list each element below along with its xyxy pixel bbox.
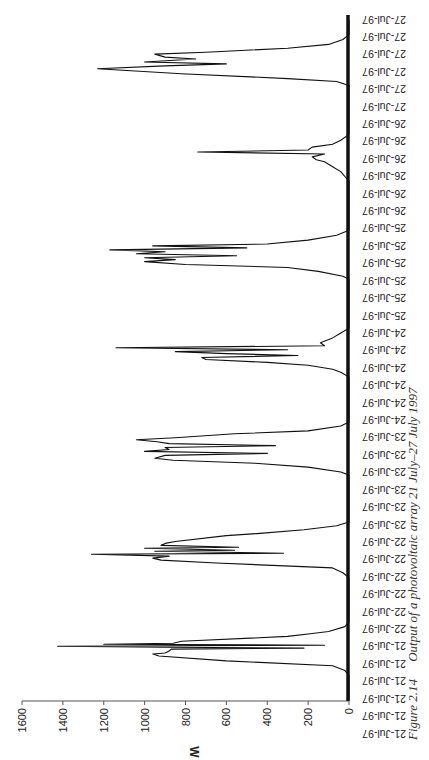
value-tick-label: 600	[220, 708, 232, 726]
time-tick-label: 23-Jul-97	[362, 431, 406, 443]
time-tick-label: 25-Jul-97	[362, 222, 406, 234]
time-tick-label: 26-Jul-97	[362, 135, 406, 147]
series-line	[58, 20, 349, 700]
value-tick-label: 800	[180, 708, 192, 726]
chart-canvas: 02004006008001000120014001600W 21-Jul-97…	[0, 0, 429, 760]
time-tick-label: 23-Jul-97	[362, 466, 406, 478]
value-tick-label: 1400	[57, 708, 69, 732]
time-tick-label: 25-Jul-97	[362, 275, 406, 287]
time-tick-label: 22-Jul-97	[362, 553, 406, 565]
time-tick-label: 24-Jul-97	[362, 344, 406, 356]
time-tick-label: 22-Jul-97	[362, 623, 406, 635]
time-tick-label: 24-Jul-97	[362, 327, 406, 339]
time-tick-label: 21-Jul-97	[362, 675, 406, 687]
time-tick-label: 21-Jul-97	[362, 693, 406, 705]
time-tick-label: 21-Jul-97	[362, 658, 406, 670]
series-path	[58, 20, 349, 700]
time-tick-label: 21-Jul-97	[362, 728, 406, 740]
time-tick-label: 21-Jul-97	[362, 640, 406, 652]
time-tick-label: 21-Jul-97	[362, 710, 406, 722]
time-tick-label: 26-Jul-97	[362, 153, 406, 165]
value-axis: 02004006008001000120014001600W	[16, 701, 355, 758]
time-tick-label: 27-Jul-97	[362, 101, 406, 113]
time-tick-label: 25-Jul-97	[362, 257, 406, 269]
time-tick-label: 26-Jul-97	[362, 205, 406, 217]
time-tick-label: 23-Jul-97	[362, 501, 406, 513]
figure-caption-text: Output of a photovoltaic array 21 July–2…	[405, 387, 420, 661]
time-tick-label: 24-Jul-97	[362, 362, 406, 374]
value-axis-label: W	[187, 746, 201, 758]
time-axis: 21-Jul-9721-Jul-9721-Jul-9721-Jul-9721-J…	[348, 14, 406, 740]
time-tick-label: 26-Jul-97	[362, 170, 406, 182]
time-tick-label: 27-Jul-97	[362, 48, 406, 60]
time-tick-label: 26-Jul-97	[362, 118, 406, 130]
value-tick-label: 0	[343, 708, 355, 714]
time-tick-label: 27-Jul-97	[362, 14, 406, 26]
time-tick-label: 27-Jul-97	[362, 31, 406, 43]
time-tick-label: 22-Jul-97	[362, 536, 406, 548]
value-tick-label: 1600	[16, 708, 28, 732]
time-tick-label: 24-Jul-97	[362, 414, 406, 426]
value-tick-label: 200	[302, 708, 314, 726]
figure: 02004006008001000120014001600W 21-Jul-97…	[0, 0, 429, 760]
figure-number: Figure 2.14	[405, 679, 420, 740]
time-tick-label: 25-Jul-97	[362, 292, 406, 304]
value-tick-label: 1000	[139, 708, 151, 732]
time-tick-label: 26-Jul-97	[362, 188, 406, 200]
time-tick-label: 24-Jul-97	[362, 379, 406, 391]
time-tick-label: 22-Jul-97	[362, 588, 406, 600]
time-tick-label: 24-Jul-97	[362, 397, 406, 409]
value-tick-label: 400	[261, 708, 273, 726]
time-tick-label: 25-Jul-97	[362, 240, 406, 252]
time-tick-label: 23-Jul-97	[362, 484, 406, 496]
value-tick-label: 1200	[98, 708, 110, 732]
time-tick-label: 27-Jul-97	[362, 83, 406, 95]
time-tick-label: 22-Jul-97	[362, 571, 406, 583]
time-tick-label: 27-Jul-97	[362, 66, 406, 78]
time-tick-label: 25-Jul-97	[362, 310, 406, 322]
time-tick-label: 23-Jul-97	[362, 519, 406, 531]
figure-caption: Figure 2.14 Output of a photovoltaic arr…	[405, 387, 421, 740]
time-tick-label: 23-Jul-97	[362, 449, 406, 461]
time-tick-label: 22-Jul-97	[362, 606, 406, 618]
